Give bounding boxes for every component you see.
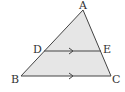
- label-c: C: [112, 73, 120, 86]
- label-b: B: [11, 73, 19, 86]
- label-e: E: [103, 43, 111, 56]
- triangle-diagram: A B C D E: [0, 0, 125, 92]
- label-a: A: [78, 0, 88, 12]
- label-d: D: [33, 43, 42, 56]
